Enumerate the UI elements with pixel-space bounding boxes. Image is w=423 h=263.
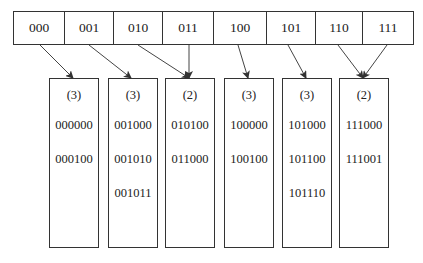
bucket-local-depth: (3) <box>50 85 98 105</box>
bucket-1: (3)000000000100 <box>49 78 99 248</box>
bucket-key: 000000 <box>50 108 98 142</box>
bucket-key: 100000 <box>225 108 273 142</box>
bucket-key: 101000 <box>283 108 331 142</box>
pointer-arrow-001 <box>89 45 131 78</box>
bucket-key: 101110 <box>283 176 331 210</box>
pointer-arrow-110 <box>338 45 363 78</box>
pointer-arrow-000 <box>40 45 73 78</box>
bucket-key: 011000 <box>166 142 214 176</box>
bucket-keys: 001000001010001011 <box>109 108 157 210</box>
bucket-key: 101100 <box>283 142 331 176</box>
bucket-keys: 010100011000 <box>166 108 214 176</box>
bucket-keys: 101000101100101110 <box>283 108 331 210</box>
pointer-arrow-100 <box>238 45 248 78</box>
bucket-key: 100100 <box>225 142 273 176</box>
bucket-3: (2)010100011000 <box>165 78 215 248</box>
bucket-key: 001000 <box>109 108 157 142</box>
bucket-key: 010100 <box>166 108 214 142</box>
bucket-keys: 100000100100 <box>225 108 273 176</box>
bucket-key: 001010 <box>109 142 157 176</box>
bucket-local-depth: (2) <box>166 85 214 105</box>
bucket-local-depth: (3) <box>283 85 331 105</box>
bucket-keys: 111000111001 <box>340 108 388 176</box>
bucket-2: (3)001000001010001011 <box>108 78 158 248</box>
bucket-5: (3)101000101100101110 <box>282 78 332 248</box>
bucket-key: 111000 <box>340 108 388 142</box>
bucket-6: (2)111000111001 <box>339 78 389 248</box>
pointer-arrow-101 <box>288 45 306 78</box>
pointer-arrow-111 <box>363 45 387 78</box>
bucket-key: 001011 <box>109 176 157 210</box>
bucket-key: 111001 <box>340 142 388 176</box>
bucket-key: 000100 <box>50 142 98 176</box>
bucket-keys: 000000000100 <box>50 108 98 176</box>
bucket-local-depth: (3) <box>109 85 157 105</box>
pointer-arrow-010 <box>138 45 189 78</box>
bucket-local-depth: (2) <box>340 85 388 105</box>
bucket-local-depth: (3) <box>225 85 273 105</box>
bucket-4: (3)100000100100 <box>224 78 274 248</box>
